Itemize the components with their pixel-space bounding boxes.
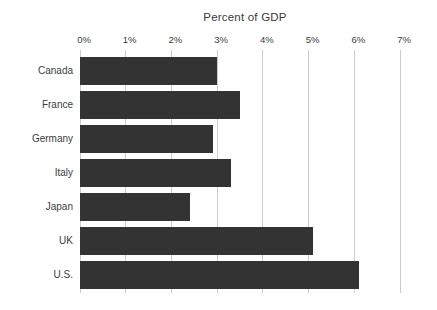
- x-tick-label-6%: 6%: [351, 34, 365, 45]
- x-tick-label-5%: 5%: [306, 34, 320, 45]
- category-label-japan: Japan: [46, 193, 73, 221]
- category-label-germany: Germany: [32, 125, 73, 153]
- category-label-uk: UK: [59, 227, 73, 255]
- category-label-france: France: [42, 91, 73, 119]
- x-tick-label-4%: 4%: [260, 34, 274, 45]
- x-tick-label-0%: 0%: [77, 34, 91, 45]
- x-tick-label-1%: 1%: [123, 34, 137, 45]
- plot-area: [80, 50, 400, 293]
- category-label-canada: Canada: [38, 57, 73, 85]
- category-axis: CanadaFranceGermanyItalyJapanUKU.S.: [0, 50, 73, 293]
- gridline-6%: [354, 50, 355, 293]
- bar-france: [80, 91, 240, 119]
- x-tick-label-7%: 7%: [397, 34, 411, 45]
- bar-italy: [80, 159, 231, 187]
- category-label-us: U.S.: [54, 261, 73, 289]
- bar-canada: [80, 57, 217, 85]
- gridline-4%: [262, 50, 263, 293]
- gridline-5%: [308, 50, 309, 293]
- category-label-italy: Italy: [55, 159, 73, 187]
- bar-germany: [80, 125, 213, 153]
- chart-title: Percent of GDP: [80, 11, 410, 23]
- x-tick-label-3%: 3%: [214, 34, 228, 45]
- bar-us: [80, 261, 359, 289]
- x-tick-label-2%: 2%: [169, 34, 183, 45]
- bar-uk: [80, 227, 313, 255]
- gdp-bar-chart-figure: Percent of GDP 0%1%2%3%4%5%6%7% CanadaFr…: [0, 0, 437, 310]
- gridline-7%: [400, 50, 401, 293]
- x-axis-tick-row: 0%1%2%3%4%5%6%7%: [80, 34, 400, 47]
- bar-japan: [80, 193, 190, 221]
